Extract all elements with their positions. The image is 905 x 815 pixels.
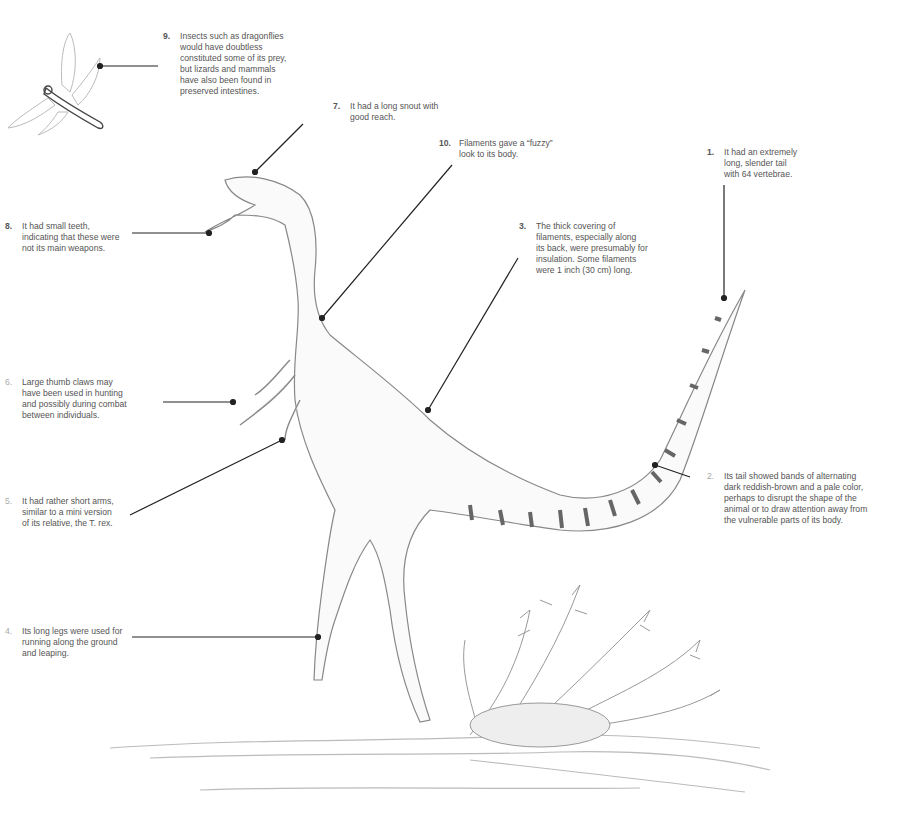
annotation-text-line: with 64 vertebrae. bbox=[724, 169, 797, 180]
annotation-text-line: have also been found in bbox=[180, 75, 286, 86]
annotation-note-5: 5.It had rather short arms,similar to a … bbox=[22, 496, 114, 529]
annotation-text-line: between individuals. bbox=[22, 410, 127, 421]
annotation-text-line: have been used in hunting bbox=[22, 388, 127, 399]
annotation-text-line: perhaps to disrupt the shape of the bbox=[724, 493, 867, 504]
annotation-note-10: 10.Filaments gave a “fuzzy”look to its b… bbox=[459, 138, 553, 160]
dinosaur-sketch bbox=[205, 177, 745, 722]
annotation-note-3: 3.The thick covering offilaments, especi… bbox=[536, 221, 648, 276]
annotation-text-line: insulation. Some filaments bbox=[536, 254, 648, 265]
annotation-text-line: the vulnerable parts of its body. bbox=[724, 515, 867, 526]
annotation-number: 9. bbox=[163, 31, 170, 42]
annotation-text-line: would have doubtless bbox=[180, 42, 286, 53]
annotation-text-line: were 1 inch (30 cm) long. bbox=[536, 265, 648, 276]
annotation-text-line: Insects such as dragonflies bbox=[180, 31, 286, 42]
annotation-note-4: 4.Its long legs were used forrunning alo… bbox=[22, 626, 122, 659]
annotation-text-line: It had a long snout with bbox=[350, 101, 438, 112]
annotation-text-line: indicating that these were bbox=[22, 232, 119, 243]
annotation-text-line: It had an extremely bbox=[724, 147, 797, 158]
annotation-text-line: Filaments gave a “fuzzy” bbox=[459, 138, 553, 149]
annotation-text-line: Large thumb claws may bbox=[22, 377, 127, 388]
annotation-text-line: Its long legs were used for bbox=[22, 626, 122, 637]
annotation-text-line: running along the ground bbox=[22, 637, 122, 648]
annotation-note-6: 6.Large thumb claws mayhave been used in… bbox=[22, 377, 127, 421]
fern-plant-sketch bbox=[464, 585, 720, 747]
dragonfly-sketch bbox=[8, 33, 103, 135]
annotation-text-line: similar to a mini version bbox=[22, 507, 114, 518]
annotation-text-line: of its relative, the T. rex. bbox=[22, 518, 114, 529]
leader-7 bbox=[255, 124, 303, 172]
annotation-number: 10. bbox=[439, 138, 451, 149]
annotation-text-line: Its tail showed bands of alternating bbox=[724, 471, 867, 482]
leader-3 bbox=[428, 258, 518, 410]
annotation-note-2: 2.Its tail showed bands of alternatingda… bbox=[724, 471, 867, 526]
annotation-text-line: and leaping. bbox=[22, 648, 122, 659]
annotation-text-line: long, slender tail bbox=[724, 158, 797, 169]
annotation-text-line: constituted some of its prey, bbox=[180, 53, 286, 64]
leader-5 bbox=[130, 440, 282, 515]
annotation-text-line: dark reddish-brown and a pale color, bbox=[724, 482, 867, 493]
annotation-note-1: 1.It had an extremelylong, slender tailw… bbox=[724, 147, 797, 180]
annotation-text-line: It had small teeth, bbox=[22, 221, 119, 232]
annotation-number: 4. bbox=[5, 626, 12, 637]
annotation-number: 6. bbox=[5, 377, 12, 388]
annotation-number: 3. bbox=[519, 221, 526, 232]
annotation-text-line: good reach. bbox=[350, 112, 438, 123]
annotation-text-line: filaments, especially along bbox=[536, 232, 648, 243]
annotation-number: 1. bbox=[707, 147, 714, 158]
annotation-note-7: 7.It had a long snout withgood reach. bbox=[350, 101, 438, 123]
dinosaur-illustration bbox=[0, 0, 905, 815]
annotation-number: 8. bbox=[5, 221, 12, 232]
ground-sketch bbox=[110, 735, 770, 792]
annotation-text-line: its back, were presumably for bbox=[536, 243, 648, 254]
leader-lines bbox=[98, 64, 727, 640]
annotation-text-line: preserved intestines. bbox=[180, 86, 286, 97]
annotation-text-line: look to its body. bbox=[459, 149, 553, 160]
annotation-text-line: animal or to draw attention away from bbox=[724, 504, 867, 515]
annotation-text-line: The thick covering of bbox=[536, 221, 648, 232]
annotation-number: 7. bbox=[333, 101, 340, 112]
annotation-text-line: not its main weapons. bbox=[22, 243, 119, 254]
annotation-text-line: but lizards and mammals bbox=[180, 64, 286, 75]
annotation-note-9: 9.Insects such as dragonflieswould have … bbox=[180, 31, 286, 97]
annotation-text-line: and possibly during combat bbox=[22, 399, 127, 410]
leader-10 bbox=[322, 165, 452, 318]
annotation-number: 2. bbox=[707, 471, 714, 482]
annotation-text-line: It had rather short arms, bbox=[22, 496, 114, 507]
annotation-note-8: 8.It had small teeth,indicating that the… bbox=[22, 221, 119, 254]
annotation-number: 5. bbox=[5, 496, 12, 507]
